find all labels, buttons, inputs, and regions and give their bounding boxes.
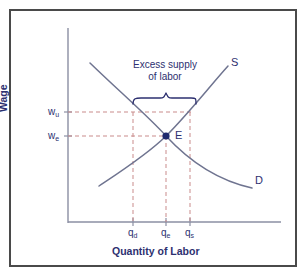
y-axis-title: Wage xyxy=(0,84,9,112)
supply-curve-label: S xyxy=(231,57,238,68)
supply-demand-plot xyxy=(0,0,308,278)
excess-supply-brace xyxy=(133,93,196,104)
equilibrium-label: E xyxy=(175,130,182,141)
y-tick-sub-wu: u xyxy=(55,111,59,118)
excess-supply-note-line1: Excess supply xyxy=(118,60,212,70)
x-tick-sub-qs: s xyxy=(191,232,195,239)
x-tick-base-qs: q xyxy=(185,227,191,238)
y-tick-sub-we: e xyxy=(55,135,59,142)
demand-curve-label: D xyxy=(255,175,263,186)
x-tick-label-qd: qd xyxy=(128,228,137,238)
excess-supply-note-line2: of labor xyxy=(118,72,212,82)
equilibrium-point xyxy=(162,132,169,139)
y-tick-label-wu: wu xyxy=(48,107,59,117)
supply-curve xyxy=(99,66,228,186)
x-tick-base-qe: q xyxy=(161,227,167,238)
x-tick-base-qd: q xyxy=(128,227,134,238)
x-tick-label-qe: qe xyxy=(161,228,170,238)
x-tick-sub-qd: d xyxy=(134,232,138,239)
figure-screen: Wage Quantity of Labor S D E Excess supp… xyxy=(0,0,308,278)
x-tick-sub-qe: e xyxy=(167,232,171,239)
x-tick-label-qs: qs xyxy=(185,228,194,238)
y-tick-label-we: we xyxy=(48,131,59,141)
x-axis-title: Quantity of Labor xyxy=(112,246,200,257)
